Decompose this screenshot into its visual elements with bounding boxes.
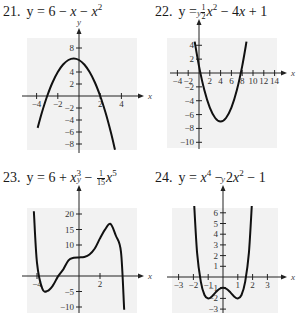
y-axis-arrow-icon	[77, 185, 82, 191]
y-tick-label: 1	[214, 261, 219, 271]
y-axis-label: y	[76, 174, 81, 184]
y-tick-label: −6	[64, 127, 74, 137]
y-tick-label: 4	[214, 229, 219, 239]
y-tick-label: −3	[208, 304, 218, 313]
x-axis-label: x	[290, 68, 295, 78]
x-tick-label: −4	[32, 99, 42, 109]
y-tick-label: 2	[214, 251, 219, 261]
graph-21: xy−4−224842−2−4−6−8	[22, 17, 152, 153]
x-tick-label: −4	[173, 76, 183, 86]
y-tick-label: 20	[65, 209, 75, 219]
panel-background	[27, 38, 137, 150]
y-tick-label: −8	[184, 123, 194, 133]
graph-24: xy−3−2−1123654321−1−2−3	[167, 174, 295, 313]
y-tick-label: −10	[60, 302, 75, 312]
x-tick-label: 10	[249, 76, 259, 86]
y-tick-label: 6	[214, 208, 219, 218]
y-tick-label: 5	[214, 219, 219, 229]
x-tick-label: 2	[98, 279, 103, 289]
x-axis-arrow-icon	[138, 274, 144, 279]
y-tick-label: 8	[70, 43, 75, 53]
y-tick-label: 10	[65, 240, 75, 250]
x-tick-label: 2	[208, 76, 213, 86]
y-tick-label: −2	[184, 82, 194, 92]
x-axis-label: x	[147, 271, 152, 281]
y-tick-label: 2	[190, 54, 195, 64]
x-axis-label: x	[147, 91, 152, 101]
y-axis-label: y	[76, 17, 81, 27]
x-tick-label: −3	[174, 280, 184, 290]
x-tick-label: 6	[229, 76, 234, 86]
x-tick-label: −2	[53, 99, 63, 109]
x-tick-label: −2	[189, 280, 199, 290]
y-tick-label: −8	[64, 139, 74, 149]
x-tick-label: 14	[270, 76, 280, 86]
graph-canvas: xy−4−224842−2−4−6−8 xy−4−2246810121442−2…	[0, 0, 305, 313]
y-tick-label: −2	[64, 103, 74, 113]
y-axis-arrow-icon	[77, 28, 82, 34]
y-axis-arrow-icon	[221, 185, 226, 191]
x-axis-arrow-icon	[138, 94, 144, 99]
x-tick-label: 2	[250, 280, 255, 290]
x-tick-label: 12	[259, 76, 268, 86]
x-tick-label: 3	[265, 280, 270, 290]
y-axis-label: y	[196, 8, 201, 18]
y-tick-label: 4	[190, 40, 195, 50]
y-tick-label: 15	[65, 225, 75, 235]
y-tick-label: 3	[214, 240, 219, 250]
graph-23: xy−42201510−5−10	[22, 174, 152, 313]
graph-22: xy−4−2246810121442−2−4−6−8−10	[167, 8, 295, 149]
y-tick-label: −5	[64, 287, 74, 297]
x-axis-arrow-icon	[281, 71, 287, 76]
y-tick-label: −10	[180, 137, 195, 147]
x-tick-label: 4	[119, 99, 124, 109]
y-tick-label: 2	[70, 79, 75, 89]
x-tick-label: 1	[236, 280, 241, 290]
y-tick-label: −4	[184, 96, 194, 106]
x-axis-label: x	[290, 272, 295, 282]
x-tick-label: 4	[218, 76, 223, 86]
x-axis-arrow-icon	[281, 275, 287, 280]
y-tick-label: −6	[184, 110, 194, 120]
y-tick-label: −4	[64, 115, 74, 125]
panel-background	[27, 208, 137, 313]
y-axis-label: y	[220, 174, 225, 184]
y-axis-arrow-icon	[197, 19, 202, 25]
y-tick-label: 4	[70, 67, 75, 77]
